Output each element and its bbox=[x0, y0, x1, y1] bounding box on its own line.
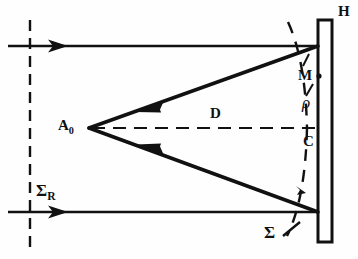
lower-object-ray bbox=[89, 128, 318, 212]
diagram-canvas bbox=[0, 0, 358, 259]
label-radius-rho: ρ bbox=[302, 94, 310, 111]
upper-object-ray bbox=[89, 46, 318, 128]
label-object-surface-sigma: Σ bbox=[264, 224, 275, 241]
label-distance-d: D bbox=[210, 106, 221, 121]
label-a0-subscript: 0 bbox=[69, 125, 74, 136]
label-a0-base: A bbox=[58, 117, 69, 133]
label-mirror-point-m: M bbox=[298, 68, 312, 83]
hologram-plate bbox=[318, 20, 332, 242]
upper-object-ray-arrowhead bbox=[136, 101, 164, 113]
label-point-source-a0: A0 bbox=[58, 118, 74, 136]
sigma-leader-line bbox=[283, 222, 300, 236]
object-surface-arc-arrowhead bbox=[296, 186, 306, 195]
label-plate-h: H bbox=[338, 4, 350, 19]
label-reference-plane-sigma-r: ΣR bbox=[36, 182, 55, 203]
mirror-point-dot bbox=[316, 73, 321, 78]
lower-object-ray-arrowhead bbox=[136, 144, 164, 156]
figure-root: H A0 ΣR D M ρ C Σ bbox=[0, 0, 358, 259]
label-sigma-r-subscript: R bbox=[47, 190, 55, 203]
m-leader-tick bbox=[303, 54, 309, 66]
label-sigma-r-base: Σ bbox=[36, 181, 47, 200]
label-center-c: C bbox=[303, 134, 314, 149]
